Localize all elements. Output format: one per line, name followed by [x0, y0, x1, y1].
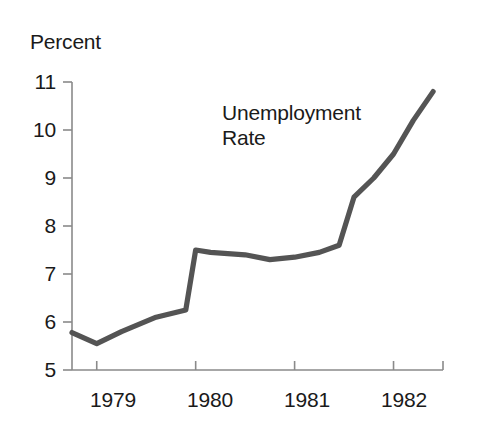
data-line-unemployment-rate	[72, 92, 433, 344]
axes	[63, 82, 443, 370]
y-tick-marks	[63, 82, 72, 370]
x-tick-marks	[97, 361, 443, 370]
unemployment-rate-chart: Percent 11 10 9 8 7 6 5 1979 1980 1981 1…	[0, 0, 480, 444]
plot-area	[0, 0, 480, 444]
